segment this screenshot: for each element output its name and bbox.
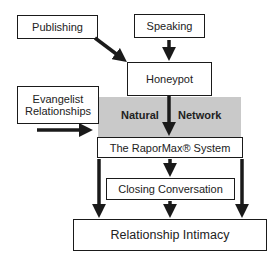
arrow-publishing-honeypot [95,38,123,59]
connector-arrows [0,0,279,257]
